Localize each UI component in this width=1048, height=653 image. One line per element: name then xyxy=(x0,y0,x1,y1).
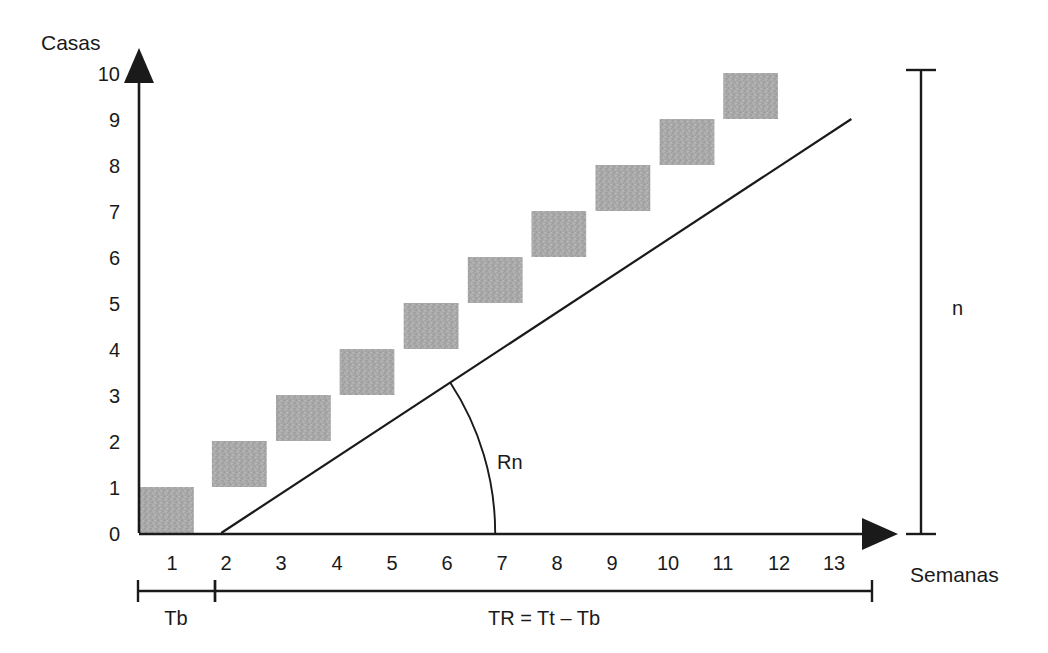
step-block-2 xyxy=(212,441,267,487)
bracket-tr-label: TR = Tt – Tb xyxy=(488,607,600,629)
step-block-8 xyxy=(596,165,651,211)
y-tick-8: 8 xyxy=(109,155,120,177)
y-tick-0: 0 xyxy=(109,523,120,545)
step-block-3 xyxy=(276,395,331,441)
step-block-1 xyxy=(139,487,194,533)
step-block-7 xyxy=(531,211,586,257)
staircase-production-chart: Casas Semanas 10 9 8 7 6 5 4 3 2 1 0 1 2… xyxy=(0,0,1048,653)
y-tick-9: 9 xyxy=(109,109,120,131)
y-tick-3: 3 xyxy=(109,385,120,407)
x-tick-6: 6 xyxy=(441,552,452,574)
x-tick-4: 4 xyxy=(331,552,342,574)
x-axis-title: Semanas xyxy=(910,563,999,586)
y-axis-title: Casas xyxy=(41,31,101,54)
bracket-tb-label: Tb xyxy=(164,607,187,629)
chart-figure: Casas Semanas 10 9 8 7 6 5 4 3 2 1 0 1 2… xyxy=(0,0,1048,653)
x-tick-7: 7 xyxy=(496,552,507,574)
step-block-4 xyxy=(340,349,395,395)
x-tick-5: 5 xyxy=(386,552,397,574)
x-tick-8: 8 xyxy=(551,552,562,574)
x-tick-10: 10 xyxy=(657,552,679,574)
step-block-10 xyxy=(723,73,778,119)
x-tick-11: 11 xyxy=(713,552,734,574)
y-tick-7: 7 xyxy=(109,201,120,223)
y-tick-4: 4 xyxy=(109,339,120,361)
x-tick-13: 13 xyxy=(823,552,845,574)
x-tick-1: 1 xyxy=(166,552,177,574)
vertical-bracket-label: n xyxy=(952,297,963,319)
y-tick-5: 5 xyxy=(109,293,120,315)
x-tick-9: 9 xyxy=(606,552,617,574)
y-tick-10: 10 xyxy=(98,63,120,85)
x-tick-12: 12 xyxy=(768,552,790,574)
x-tick-2: 2 xyxy=(220,552,231,574)
chart-background xyxy=(0,0,1048,653)
step-block-6 xyxy=(468,257,523,303)
step-block-9 xyxy=(660,119,715,165)
y-tick-1: 1 xyxy=(109,477,120,499)
y-tick-6: 6 xyxy=(109,247,120,269)
step-block-5 xyxy=(404,303,459,349)
x-tick-3: 3 xyxy=(275,552,286,574)
y-tick-2: 2 xyxy=(109,431,120,453)
angle-label-rn: Rn xyxy=(497,451,523,473)
